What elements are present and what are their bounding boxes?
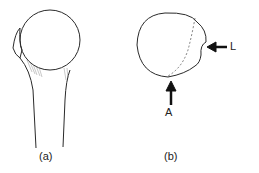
- panel-b-drawing: [137, 13, 206, 77]
- figure-canvas: A L (a) (b): [0, 0, 259, 173]
- arrow-l-icon: [207, 42, 227, 52]
- arrow-a-label: A: [165, 106, 172, 118]
- panel-a-drawing: [13, 10, 80, 148]
- humeral-head-outline: [137, 13, 206, 77]
- arrow-l-label: L: [230, 40, 236, 52]
- caption-b: (b): [164, 150, 177, 162]
- articular-margin: [168, 18, 195, 76]
- shaft-left-edge: [20, 58, 36, 148]
- arrow-a-icon: [166, 81, 176, 105]
- caption-a: (a): [39, 150, 52, 162]
- diagram-drawing: [0, 0, 259, 173]
- shaft-right-edge: [63, 70, 70, 147]
- humeral-head-circle: [20, 10, 80, 70]
